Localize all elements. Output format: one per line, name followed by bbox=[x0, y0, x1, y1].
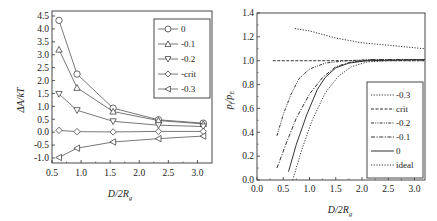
legend-label: -0.3 bbox=[396, 90, 411, 100]
y-tick-label: 2.0 bbox=[37, 76, 49, 86]
data-point-marker bbox=[155, 135, 161, 141]
y-tick-label: 4.0 bbox=[37, 24, 49, 34]
y-tick-label: 2.5 bbox=[37, 63, 49, 73]
x-tick-label: 2.5 bbox=[382, 184, 394, 194]
x-tick-label: 2.0 bbox=[356, 184, 368, 194]
legend-label: -crit bbox=[181, 69, 196, 79]
x-tick-label: 0.0 bbox=[251, 184, 263, 194]
data-point-marker bbox=[74, 145, 80, 151]
figure: 0.51.01.52.02.53.0 -1.0-0.50.00.51.01.52… bbox=[0, 0, 437, 221]
y-tick-label: 0.8 bbox=[242, 80, 254, 90]
y-tick-label: 1.2 bbox=[242, 32, 254, 42]
x-tick-label: 0.5 bbox=[277, 184, 289, 194]
right-chart: 0.00.51.01.52.02.53.0 0.00.20.40.60.81.0… bbox=[223, 8, 425, 217]
y-tick-label: 0.4 bbox=[242, 128, 254, 138]
y-tick-label: 0.0 bbox=[37, 127, 49, 137]
y-tick-label: 1.5 bbox=[37, 89, 49, 99]
y-tick-label: 1.0 bbox=[37, 102, 49, 112]
left-x-axis-label: D/2Rg bbox=[107, 188, 133, 201]
y-tick-label: 0.0 bbox=[242, 175, 254, 185]
x-tick-label: 0.5 bbox=[46, 168, 58, 178]
data-point-marker bbox=[110, 139, 116, 145]
legend-label: 0 bbox=[396, 146, 401, 156]
data-point-marker bbox=[74, 85, 80, 91]
legend-label: 0 bbox=[181, 24, 186, 34]
x-tick-label: 1.5 bbox=[330, 184, 342, 194]
y-tick-label: -1.0 bbox=[34, 153, 49, 163]
y-tick-label: 3.5 bbox=[37, 37, 49, 47]
series--crit bbox=[56, 127, 207, 135]
legend-label: -0.1 bbox=[181, 39, 195, 49]
legend-label: crit bbox=[396, 104, 408, 114]
legend-label: -0.2 bbox=[181, 54, 195, 64]
data-point-marker bbox=[56, 46, 62, 52]
data-point-marker bbox=[110, 129, 116, 135]
data-point-marker bbox=[74, 128, 80, 134]
right-legend: -0.3crit-0.2-0.10ideal bbox=[367, 82, 423, 178]
x-tick-label: 3.0 bbox=[192, 168, 204, 178]
y-tick-label: 0.6 bbox=[242, 104, 254, 114]
right-y-axis-label: pf/pE bbox=[223, 91, 235, 111]
right-x-axis-label: D/2Rg bbox=[327, 204, 353, 217]
y-tick-label: -0.5 bbox=[34, 140, 49, 150]
series--0.3 bbox=[295, 29, 425, 49]
legend-label: ideal bbox=[396, 160, 414, 170]
legend-label: -0.3 bbox=[181, 84, 196, 94]
data-point-marker bbox=[165, 26, 171, 32]
y-tick-label: 1.0 bbox=[242, 56, 254, 66]
left-chart: 0.51.01.52.02.53.0 -1.0-0.50.00.51.01.52… bbox=[15, 11, 212, 201]
right-legend-box bbox=[367, 82, 423, 178]
x-tick-label: 1.0 bbox=[75, 168, 87, 178]
data-point-marker bbox=[155, 128, 161, 134]
y-tick-label: 0.2 bbox=[242, 151, 254, 161]
y-tick-label: 4.5 bbox=[37, 11, 49, 21]
y-tick-label: 0.5 bbox=[37, 115, 49, 125]
x-tick-label: 2.5 bbox=[162, 168, 174, 178]
y-tick-label: 3.0 bbox=[37, 50, 49, 60]
x-tick-label: 1.5 bbox=[104, 168, 116, 178]
data-point-marker bbox=[56, 127, 62, 133]
legend-label: -0.1 bbox=[396, 132, 410, 142]
left-legend: 0-0.1-0.2-crit-0.3 bbox=[154, 19, 210, 98]
data-point-marker bbox=[56, 17, 62, 23]
data-point-marker bbox=[74, 71, 80, 77]
left-y-axis-label: ΔA/kT bbox=[15, 86, 26, 113]
x-tick-label: 1.0 bbox=[304, 184, 316, 194]
series--0.3 bbox=[56, 133, 206, 161]
legend-label: -0.2 bbox=[396, 118, 410, 128]
x-tick-label: 2.0 bbox=[133, 168, 145, 178]
data-point-marker bbox=[56, 154, 62, 160]
y-tick-label: 1.4 bbox=[242, 8, 254, 18]
x-tick-label: 3.0 bbox=[409, 184, 421, 194]
